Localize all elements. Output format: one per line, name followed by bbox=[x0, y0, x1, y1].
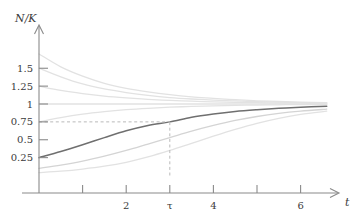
axes-layer bbox=[22, 25, 339, 198]
logistic-growth-chart: N/K t 0.250.50.7511.251.5 2τ46 bbox=[0, 0, 355, 218]
y-tick-label: 0.5 bbox=[17, 134, 33, 145]
curve-faint bbox=[39, 54, 327, 103]
y-tick-label: 1.25 bbox=[11, 81, 33, 92]
x-tick-label: τ bbox=[167, 200, 173, 211]
curves-layer bbox=[39, 54, 327, 173]
y-tick-label: 1 bbox=[27, 99, 33, 110]
y-tick-label: 0.25 bbox=[11, 152, 33, 163]
curve-faint bbox=[39, 86, 327, 103]
x-tick-label: 6 bbox=[297, 200, 303, 211]
y-tick-labels-layer: 0.250.50.7511.251.5 bbox=[11, 63, 33, 163]
x-ticks-layer bbox=[83, 185, 301, 193]
curve-mid bbox=[39, 109, 327, 168]
x-tick-label: 4 bbox=[210, 200, 216, 211]
guide-lines-layer bbox=[39, 122, 170, 176]
x-axis-label: t bbox=[345, 196, 350, 209]
x-tick-labels-layer: 2τ46 bbox=[123, 200, 304, 211]
y-tick-label: 1.5 bbox=[17, 63, 33, 74]
x-tick-label: 2 bbox=[123, 200, 129, 211]
curve-faint bbox=[39, 111, 327, 172]
y-axis-label: N/K bbox=[14, 12, 37, 25]
y-ticks-layer bbox=[39, 68, 48, 157]
y-tick-label: 0.75 bbox=[11, 116, 33, 127]
curve-faint bbox=[39, 68, 327, 103]
